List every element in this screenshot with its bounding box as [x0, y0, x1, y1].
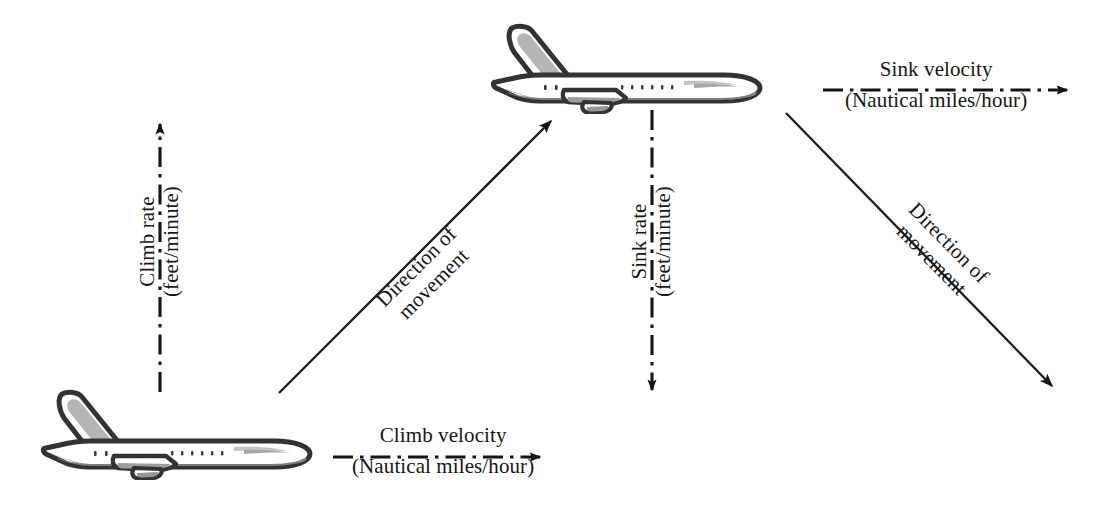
- sink-rate-label: Sink rate (feet/minute): [628, 142, 675, 342]
- sink-rate-label-line2: (feet/minute): [652, 142, 676, 342]
- climb-velocity-label-line2: (Nautical miles/hour): [352, 455, 534, 479]
- aircraft-lower-left: [38, 388, 316, 480]
- climb-rate-label-line2: (feet/minute): [160, 142, 184, 342]
- sink-velocity-label: Sink velocity (Nautical miles/hour): [845, 58, 1027, 112]
- climb-velocity-label-line1: Climb velocity: [352, 424, 534, 448]
- climb-rate-label-line1: Climb rate: [136, 142, 160, 342]
- aircraft-upper-middle: [488, 22, 766, 114]
- sink-velocity-label-line1: Sink velocity: [845, 58, 1027, 82]
- sink-velocity-label-line2: (Nautical miles/hour): [845, 89, 1027, 113]
- sink-rate-label-line1: Sink rate: [628, 142, 652, 342]
- climb-velocity-label: Climb velocity (Nautical miles/hour): [352, 424, 534, 478]
- climb-rate-label: Climb rate (feet/minute): [136, 142, 183, 342]
- aircraft-vector-diagram: Climb rate (feet/minute) Sink rate (feet…: [0, 0, 1104, 510]
